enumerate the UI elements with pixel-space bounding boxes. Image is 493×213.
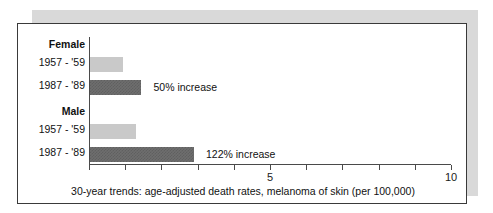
x-axis-tick — [125, 165, 126, 170]
bar-annotation: 122% increase — [206, 148, 275, 160]
bar — [90, 57, 123, 72]
figure-container: 510 Female1957 - '591987 - '8950% increa… — [0, 0, 493, 213]
x-axis-tick — [89, 165, 90, 170]
category-label: 1957 - '59 — [39, 123, 85, 135]
x-axis-tick — [451, 165, 452, 170]
x-axis-tick-label: 5 — [267, 171, 273, 183]
group-label-female: Female — [49, 38, 85, 50]
bar — [90, 80, 141, 95]
x-axis-tick — [342, 165, 343, 170]
x-axis-tick — [379, 165, 380, 170]
bar-annotation: 50% increase — [153, 81, 217, 93]
group-label-male: Male — [62, 105, 85, 117]
bar — [90, 147, 194, 162]
x-axis-tick — [306, 165, 307, 170]
x-axis-tick — [198, 165, 199, 170]
bar — [90, 124, 136, 139]
x-axis-tick-label: 10 — [445, 171, 457, 183]
x-axis-tick — [161, 165, 162, 170]
category-label: 1957 - '59 — [39, 56, 85, 68]
category-label: 1987 - '89 — [39, 79, 85, 91]
x-axis-tick — [234, 165, 235, 170]
chart-panel: 510 Female1957 - '591987 - '8950% increa… — [17, 23, 467, 204]
category-label: 1987 - '89 — [39, 146, 85, 158]
chart-caption: 30-year trends: age-adjusted death rates… — [18, 185, 468, 197]
x-axis-tick — [270, 165, 271, 170]
plot-area: 510 Female1957 - '591987 - '8950% increa… — [18, 24, 468, 205]
x-axis-tick — [415, 165, 416, 170]
